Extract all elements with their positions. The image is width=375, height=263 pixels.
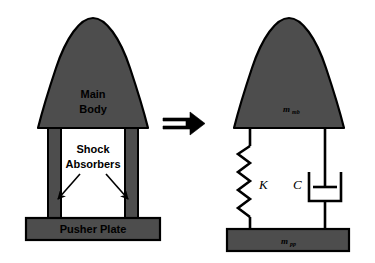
right-lumped-mass-model: m mb K C xyxy=(227,18,349,251)
right-pusher-plate-mass-symbol: m xyxy=(281,236,288,246)
right-main-body-mass-subscript: mb xyxy=(292,109,300,115)
left-shock-absorber-leg-left xyxy=(48,128,61,218)
implies-arrow-icon xyxy=(163,112,205,135)
spring-element xyxy=(238,129,250,230)
diagram-svg: Main Body Shock Absorbers Pusher Plate xyxy=(0,0,375,263)
spring-constant-label: K xyxy=(258,177,269,192)
left-main-body-label-line1: Main xyxy=(80,88,105,100)
left-shock-absorber-pointer-arrows xyxy=(58,174,128,199)
left-shock-absorber-leg-right xyxy=(125,128,138,218)
diagram-canvas: Main Body Shock Absorbers Pusher Plate xyxy=(0,0,375,263)
left-shock-absorbers-label-line2: Absorbers xyxy=(65,158,120,170)
damper-element xyxy=(309,129,341,230)
left-main-body-label-line2: Body xyxy=(79,103,107,115)
spring-zigzag-icon xyxy=(238,146,250,217)
right-main-body-mass-symbol: m xyxy=(283,104,290,114)
damping-coefficient-label: C xyxy=(293,177,302,192)
right-pusher-plate-mass-subscript: pp xyxy=(289,241,296,247)
left-physical-configuration: Main Body Shock Absorbers Pusher Plate xyxy=(26,18,160,240)
left-shock-absorbers-label-line1: Shock xyxy=(76,143,110,155)
left-pusher-plate-label: Pusher Plate xyxy=(60,223,127,235)
